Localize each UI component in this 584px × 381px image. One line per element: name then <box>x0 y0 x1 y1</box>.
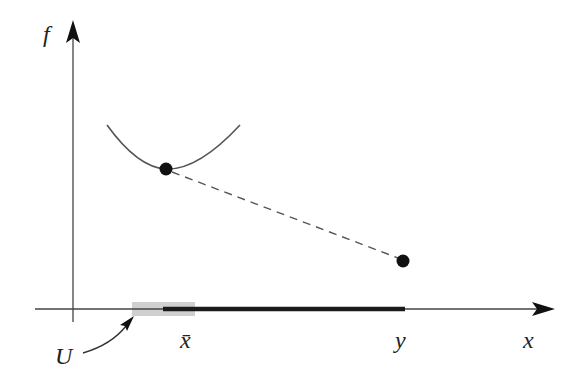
label-x: x <box>522 327 534 353</box>
u-pointer-arrow <box>83 326 126 353</box>
function-curve <box>107 125 240 169</box>
label-f: f <box>43 21 53 47</box>
label-y: y <box>393 327 406 353</box>
label-u: U <box>55 343 74 369</box>
point-xbar <box>160 163 173 176</box>
dashed-secant <box>172 172 398 258</box>
point-y <box>397 255 410 268</box>
u-pointer-arrowhead-icon <box>120 316 134 331</box>
label-x-bar: x̄ <box>179 327 191 353</box>
diagram-canvas: f x x̄ y U <box>0 0 584 381</box>
